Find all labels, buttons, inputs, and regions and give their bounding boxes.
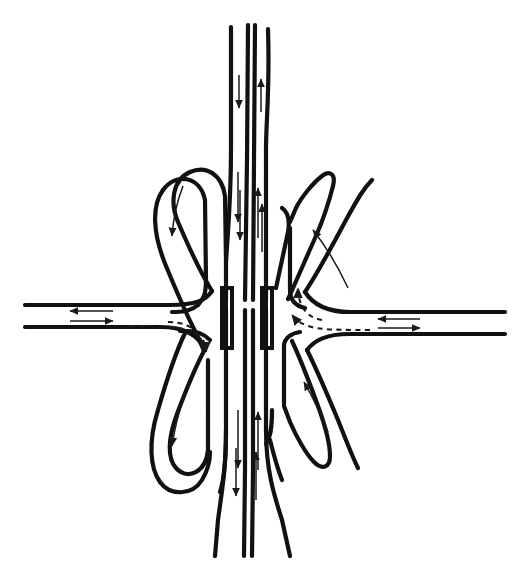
mainline-east-inner-edge-south — [252, 310, 253, 556]
flow-arrows-turning-dashed — [130, 288, 370, 353]
crossroad-east-lower-edge — [307, 334, 505, 350]
flow-arrows-mainline-top — [238, 75, 262, 252]
figure-page — [0, 0, 527, 580]
mainline-west-inner-edge-south — [244, 310, 245, 556]
crossroad-east-upper-edge — [305, 292, 505, 312]
ramp-loop-sw — [151, 333, 226, 492]
mainline-east-outer-edge — [266, 29, 269, 300]
ramp-sw-outer-edge — [170, 349, 208, 474]
mainline-east-inner-edge — [253, 25, 255, 300]
arrow-ramp-ne — [313, 230, 348, 288]
ramp-ne-merge-edge — [276, 208, 289, 288]
ramp-se-inner-edge — [284, 341, 330, 467]
interchange-diagram — [0, 0, 527, 580]
ramp-loop-nw — [155, 170, 226, 349]
mainline-west-inner-edge — [245, 25, 248, 300]
arrow-turn-dashed-right-west — [292, 315, 370, 330]
ramp-se-outer-edge — [307, 350, 358, 468]
ramp-diagonal-se — [266, 341, 358, 480]
